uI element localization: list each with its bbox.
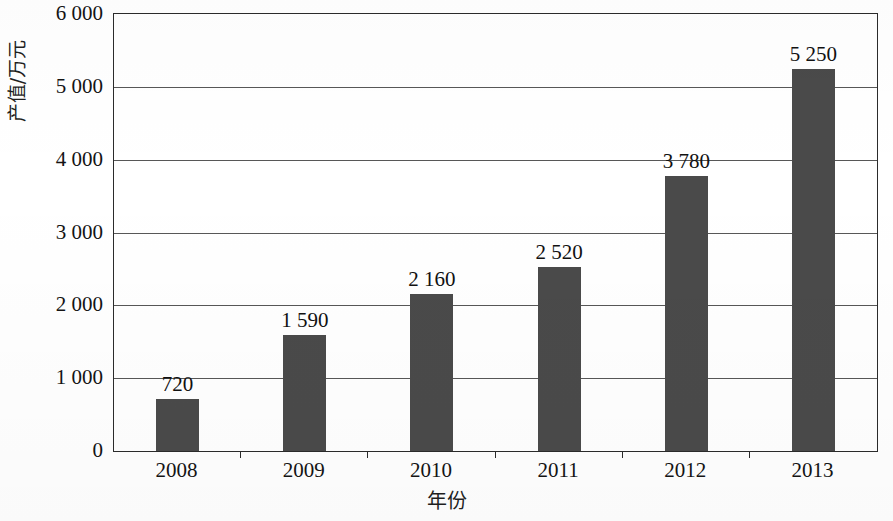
bar bbox=[792, 69, 835, 451]
x-axis-tick bbox=[622, 451, 623, 458]
x-axis-tick-label: 2013 bbox=[752, 458, 872, 482]
x-axis-tick bbox=[367, 451, 368, 458]
bar bbox=[283, 335, 326, 451]
gridline bbox=[114, 305, 877, 306]
plot-inner: 7201 5902 1602 5203 7805 250 bbox=[114, 14, 877, 451]
bar-value-label: 2 520 bbox=[499, 242, 619, 263]
bar bbox=[665, 176, 708, 451]
bar-value-label: 3 780 bbox=[626, 151, 746, 172]
y-axis-tick-label: 1 000 bbox=[17, 367, 103, 388]
bar-chart-figure: 产值/万元 01 0002 0003 0004 0005 0006 000 72… bbox=[0, 0, 893, 521]
bar-value-label: 2 160 bbox=[372, 269, 492, 290]
x-axis-tick bbox=[240, 451, 241, 458]
x-axis-tick-label: 2010 bbox=[371, 458, 491, 482]
x-axis-tick-label: 2011 bbox=[498, 458, 618, 482]
y-axis-tick-label: 2 000 bbox=[17, 294, 103, 315]
y-axis-tick-labels: 01 0002 0003 0004 0005 0006 000 bbox=[0, 0, 103, 470]
y-axis-tick-label: 4 000 bbox=[17, 149, 103, 170]
bar bbox=[410, 294, 453, 451]
x-axis-tick-label: 2008 bbox=[117, 458, 237, 482]
y-axis-tick-label: 3 000 bbox=[17, 222, 103, 243]
bar bbox=[538, 267, 581, 451]
gridline bbox=[114, 233, 877, 234]
x-axis-tick-label: 2012 bbox=[625, 458, 745, 482]
x-axis-tick bbox=[749, 451, 750, 458]
bar-value-label: 5 250 bbox=[753, 44, 873, 65]
bar-value-label: 1 590 bbox=[245, 310, 365, 331]
x-axis-tick bbox=[495, 451, 496, 458]
gridline bbox=[114, 160, 877, 161]
y-axis-tick-label: 6 000 bbox=[17, 3, 103, 24]
bar bbox=[156, 399, 199, 451]
y-axis-tick-label: 5 000 bbox=[17, 76, 103, 97]
gridline bbox=[114, 87, 877, 88]
bar-value-label: 720 bbox=[118, 374, 238, 395]
x-axis-title: 年份 bbox=[0, 489, 893, 513]
x-axis-tick-label: 2009 bbox=[244, 458, 364, 482]
y-axis-tick-label: 0 bbox=[17, 440, 103, 461]
plot-area: 7201 5902 1602 5203 7805 250 bbox=[113, 13, 878, 452]
